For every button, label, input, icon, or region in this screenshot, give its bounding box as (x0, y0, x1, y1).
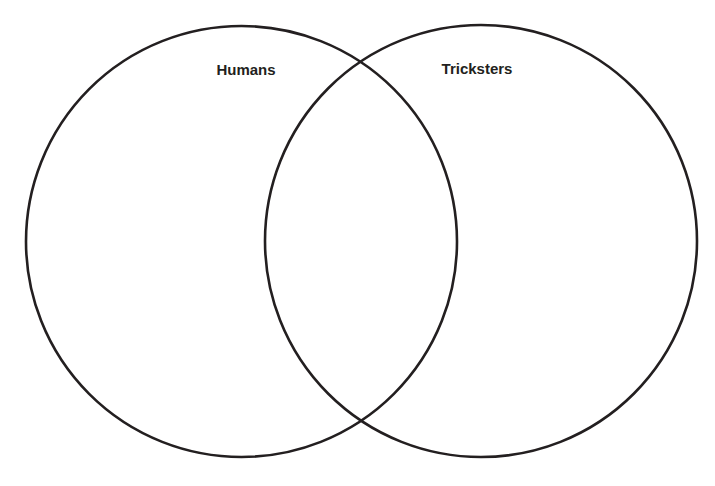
humans-label: Humans (216, 61, 275, 78)
venn-diagram: Humans Tricksters (0, 0, 715, 486)
tricksters-circle (265, 25, 697, 457)
tricksters-label: Tricksters (442, 60, 513, 77)
humans-circle (26, 26, 457, 457)
